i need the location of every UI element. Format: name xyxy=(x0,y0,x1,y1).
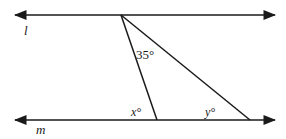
angle-x-label: x° xyxy=(130,105,141,119)
angle-y-label: y° xyxy=(204,105,215,119)
parallel-lines-diagram: l m 35° x° y° xyxy=(0,0,286,139)
label-m: m xyxy=(36,122,45,137)
angle-35-label: 35° xyxy=(136,47,154,62)
label-l: l xyxy=(24,23,28,38)
